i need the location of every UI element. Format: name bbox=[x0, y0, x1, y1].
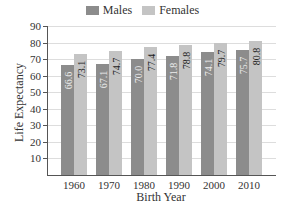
y-tick bbox=[43, 142, 48, 143]
y-tick bbox=[43, 109, 48, 110]
bar-value-label: 71.8 bbox=[167, 63, 178, 81]
y-tick-label: 60 bbox=[30, 70, 41, 82]
y-tick-label: 80 bbox=[30, 37, 41, 49]
legend-item-males: Males bbox=[86, 3, 132, 18]
bar-males-1970: 67.1 bbox=[96, 64, 109, 175]
bar-value-label: 80.8 bbox=[250, 48, 261, 66]
y-tick-label: 10 bbox=[30, 152, 41, 164]
chart-legend: Males Females bbox=[0, 3, 285, 18]
y-tick bbox=[43, 158, 48, 159]
bar-males-1990: 71.8 bbox=[166, 56, 179, 175]
bar-value-label: 77.4 bbox=[145, 54, 156, 72]
y-tick-label: 70 bbox=[30, 53, 41, 65]
gridline bbox=[48, 43, 276, 44]
bar-value-label: 75.7 bbox=[237, 56, 248, 74]
legend-swatch-males bbox=[86, 6, 99, 15]
bar-value-label: 78.8 bbox=[180, 51, 191, 69]
y-tick bbox=[43, 76, 48, 77]
y-tick-label: 50 bbox=[30, 86, 41, 98]
bar-value-label: 70.0 bbox=[132, 66, 143, 84]
bar-males-2010: 75.7 bbox=[236, 50, 249, 175]
y-tick-label: 20 bbox=[30, 136, 41, 148]
bar-females-1990: 78.8 bbox=[179, 45, 192, 175]
y-tick-label: 90 bbox=[30, 20, 41, 32]
bar-value-label: 66.6 bbox=[62, 72, 73, 90]
y-tick bbox=[43, 59, 48, 60]
y-tick bbox=[43, 125, 48, 126]
y-tick bbox=[43, 92, 48, 93]
bar-females-1960: 73.1 bbox=[74, 54, 87, 175]
y-axis-title: Life Expectancy bbox=[12, 48, 27, 158]
bar-females-1970: 74.7 bbox=[109, 51, 122, 175]
y-tick bbox=[43, 26, 48, 27]
y-tick-label: 30 bbox=[30, 119, 41, 131]
bar-females-2010: 80.8 bbox=[249, 41, 262, 175]
bar-value-label: 73.1 bbox=[75, 61, 86, 79]
bar-males-2000: 74.1 bbox=[201, 52, 214, 175]
y-tick-label: 40 bbox=[30, 103, 41, 115]
bar-value-label: 67.1 bbox=[97, 71, 108, 89]
bar-males-1980: 70.0 bbox=[131, 59, 144, 175]
bar-females-2000: 79.7 bbox=[214, 43, 227, 175]
x-axis-title: Birth Year bbox=[47, 190, 275, 205]
bar-value-label: 74.1 bbox=[202, 59, 213, 77]
gridline bbox=[48, 26, 276, 27]
legend-label-females: Females bbox=[159, 3, 199, 18]
plot-area: 10203040506070809066.673.1196067.174.719… bbox=[47, 26, 276, 176]
bar-value-label: 79.7 bbox=[215, 50, 226, 68]
bar-males-1960: 66.6 bbox=[61, 65, 74, 175]
legend-label-males: Males bbox=[103, 3, 132, 18]
bar-females-1980: 77.4 bbox=[144, 47, 157, 175]
legend-swatch-females bbox=[142, 6, 155, 15]
y-tick bbox=[43, 43, 48, 44]
legend-item-females: Females bbox=[142, 3, 199, 18]
bar-value-label: 74.7 bbox=[110, 58, 121, 76]
